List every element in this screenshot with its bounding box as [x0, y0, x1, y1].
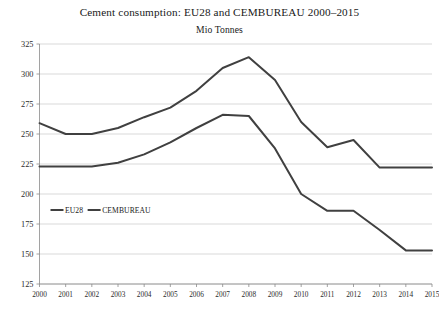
- y-tick-label: 325: [21, 40, 33, 49]
- legend-label-cembureau: CEMBUREAU: [102, 206, 151, 215]
- series-line-eu28: [40, 115, 433, 251]
- y-tick-label: 150: [21, 250, 33, 259]
- x-tick-label: 2014: [399, 290, 414, 299]
- y-tick-label: 175: [21, 220, 33, 229]
- chart-legend: EU28CEMBUREAU: [51, 206, 152, 215]
- x-tick-label: 2009: [268, 290, 283, 299]
- chart-plot-area: 125150175200225250275300325 200020012002…: [0, 0, 439, 316]
- x-tick-label: 2002: [85, 290, 100, 299]
- y-tick-label: 200: [21, 190, 33, 199]
- x-tick-label: 2003: [111, 290, 126, 299]
- y-tick-label: 250: [21, 130, 33, 139]
- x-tick-label: 2008: [242, 290, 257, 299]
- x-axis: 2000200120022003200420052006200720082009…: [32, 284, 439, 299]
- x-tick-label: 2006: [189, 290, 204, 299]
- x-tick-label: 2004: [137, 290, 152, 299]
- y-tick-label: 225: [21, 160, 33, 169]
- x-tick-label: 2000: [32, 290, 47, 299]
- y-tick-label: 300: [21, 70, 33, 79]
- x-tick-label: 2010: [294, 290, 309, 299]
- y-tick-label: 125: [21, 280, 33, 289]
- x-tick-label: 2013: [372, 290, 387, 299]
- x-tick-label: 2011: [320, 290, 335, 299]
- x-tick-label: 2012: [346, 290, 361, 299]
- y-tick-label: 275: [21, 100, 33, 109]
- y-axis: 125150175200225250275300325: [21, 40, 39, 289]
- x-tick-label: 2015: [425, 290, 439, 299]
- legend-label-eu28: EU28: [65, 206, 83, 215]
- gridlines: [40, 44, 433, 284]
- chart-figure: Cement consumption: EU28 and CEMBUREAU 2…: [0, 0, 439, 316]
- x-tick-label: 2005: [163, 290, 178, 299]
- x-tick-label: 2007: [215, 290, 230, 299]
- data-series: [40, 57, 433, 250]
- x-tick-label: 2001: [58, 290, 73, 299]
